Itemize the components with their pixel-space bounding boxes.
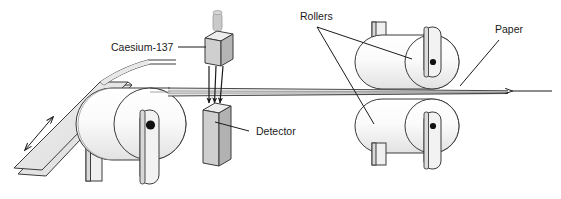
paper-supply-roll [76,88,186,184]
label-caesium-137: Caesium-137 [111,41,174,53]
label-paper: Paper [495,23,524,35]
roller-lower-axle-bracket [424,112,441,169]
roller-lower-post [372,143,386,165]
caesium-source [205,11,233,66]
roller-upper-axle-bracket [424,27,441,77]
roller-upper [355,22,459,89]
detector-box [203,103,231,166]
roll-axle-bracket [140,110,159,184]
paper-leader-line [460,40,499,86]
label-detector: Detector [256,125,296,137]
radiation-beam-arrows [209,66,223,103]
label-rollers: Rollers [300,10,333,22]
diagram-canvas: Caesium-137 Detector [0,0,561,199]
source-cap [213,11,222,32]
paper-web [150,88,508,96]
roller-lower [355,99,459,169]
paper-gauge-diagram: Caesium-137 Detector [0,0,561,199]
